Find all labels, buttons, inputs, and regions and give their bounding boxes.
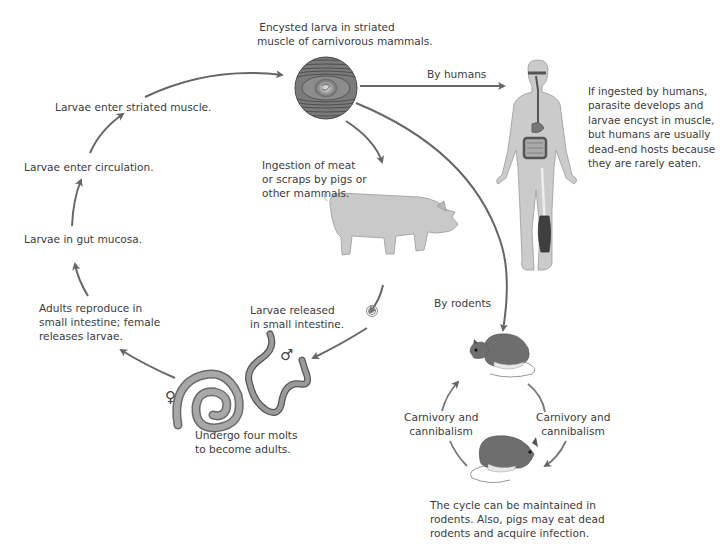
label-four-molts: Undergo four molts to become adults. xyxy=(195,428,298,456)
label-line: larvae encyst in muscle, xyxy=(588,113,715,127)
female-symbol: ♀ xyxy=(165,390,176,405)
label-enter-circulation: Larvae enter circulation. xyxy=(24,160,154,174)
label-gut-mucosa: Larvae in gut mucosa. xyxy=(24,232,142,246)
label-carnivory-left: Carnivory and cannibalism xyxy=(404,410,478,438)
label-line: rodents and acquire infection. xyxy=(430,526,605,540)
label-line: but humans are usually xyxy=(588,127,715,141)
label-line: Larvae released xyxy=(250,303,344,317)
label-ingestion: Ingestion of meat or scraps by pigs or o… xyxy=(262,158,366,200)
label-adults-reproduce: Adults reproduce in small intestine; fem… xyxy=(39,301,160,343)
label-line: Ingestion of meat xyxy=(262,158,366,172)
label-line: Adults reproduce in xyxy=(39,301,160,315)
arrow-to-muscle xyxy=(90,114,123,153)
label-line: small intestine; female xyxy=(39,315,160,329)
label-line: cannibalism xyxy=(536,424,610,438)
label-by-rodents: By rodents xyxy=(434,296,491,310)
arrow-to-reproduce xyxy=(121,350,175,378)
pig-icon xyxy=(324,192,458,255)
label-line: rodents. Also, pigs may eat dead xyxy=(430,512,605,526)
label-line: they are rarely eaten. xyxy=(588,156,715,170)
arrow-to-mucosa xyxy=(75,264,88,296)
human-body-icon xyxy=(497,60,577,270)
label-line: If ingested by humans, xyxy=(588,84,715,98)
arrow-to-male-worm xyxy=(313,328,367,358)
rodent-icon xyxy=(470,334,535,377)
label-line: parasite develops and xyxy=(588,98,715,112)
female-worm-icon xyxy=(177,374,240,428)
label-line: cannibalism xyxy=(404,424,478,438)
label-line: releases larvae. xyxy=(39,329,160,343)
muscle-cyst-icon xyxy=(290,57,362,119)
label-encysted-larva: Encysted larva in striated muscle of car… xyxy=(257,20,397,48)
male-symbol: ♂ xyxy=(280,348,293,363)
label-carnivory-right: Carnivory and cannibalism xyxy=(536,410,610,438)
label-line: Encysted larva in striated xyxy=(257,20,397,34)
label-line: dead-end hosts because xyxy=(588,142,715,156)
arrow-to-circulation xyxy=(72,180,81,226)
label-by-humans: By humans xyxy=(427,67,486,81)
male-worm-icon xyxy=(249,334,308,412)
label-larvae-released: Larvae released in small intestine. xyxy=(250,303,344,331)
label-human-note: If ingested by humans, parasite develops… xyxy=(588,84,715,170)
arrow-to-pig xyxy=(346,121,382,162)
label-line: muscle of carnivorous mammals. xyxy=(257,34,397,48)
label-line: other mammals. xyxy=(262,186,366,200)
label-line: The cycle can be maintained in xyxy=(430,498,605,512)
label-line: in small intestine. xyxy=(250,317,344,331)
label-line: Carnivory and xyxy=(404,410,478,424)
label-rodent-note: The cycle can be maintained in rodents. … xyxy=(430,498,605,540)
label-line: or scraps by pigs or xyxy=(262,172,366,186)
arrow-to-cyst xyxy=(145,73,282,97)
label-line: Carnivory and xyxy=(536,410,610,424)
label-line: to become adults. xyxy=(195,442,298,456)
label-line: Undergo four molts xyxy=(195,428,298,442)
rodent-icon-bottom xyxy=(471,436,539,483)
label-enter-muscle: Larvae enter striated muscle. xyxy=(55,100,211,114)
